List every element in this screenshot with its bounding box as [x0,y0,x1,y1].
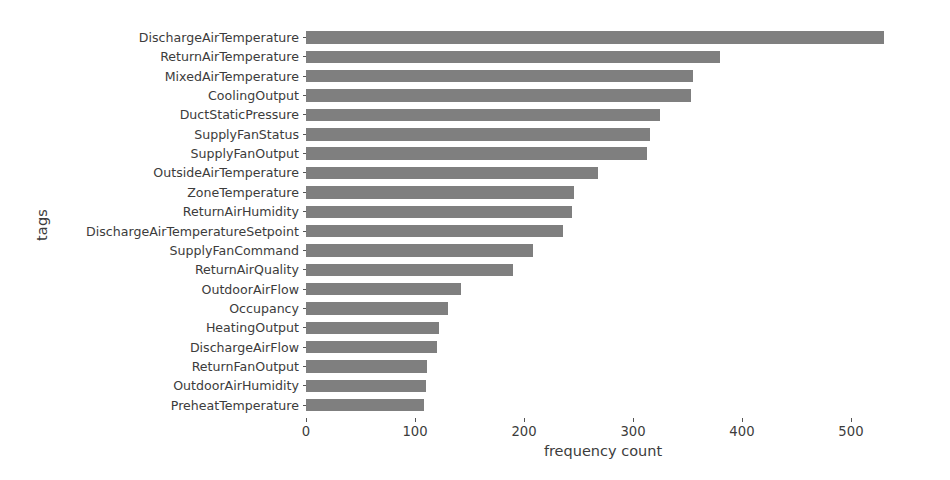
bar-row: DuctStaticPressure [306,105,900,124]
y-tick-label: OutdoorAirHumidity [173,376,306,395]
x-tick-mark [306,418,307,422]
y-axis-title: tags [34,175,54,275]
x-tick-label: 0 [276,424,336,439]
bar-row: SupplyFanOutput [306,144,900,163]
bar-row: OutdoorAirHumidity [306,376,900,395]
bar-row: ReturnAirTemperature [306,47,900,66]
x-tick-label: 200 [494,424,554,439]
bar [306,89,691,101]
y-tick-label: MixedAirTemperature [165,67,306,86]
bar [306,244,533,256]
y-tick-label: ReturnAirHumidity [183,202,306,221]
bar-row: OutsideAirTemperature [306,163,900,182]
y-tick-label: HeatingOutput [206,318,306,337]
y-tick-label: ReturnFanOutput [192,357,306,376]
bar [306,51,720,63]
y-tick-label: DischargeAirFlow [190,338,306,357]
bar-row: MixedAirTemperature [306,67,900,86]
y-tick-label: ReturnAirTemperature [160,47,306,66]
bar [306,283,461,295]
bar [306,147,647,159]
y-tick-label: PreheatTemperature [171,396,306,415]
bar-row: DischargeAirTemperature [306,28,900,47]
bar-row: ZoneTemperature [306,183,900,202]
x-tick-mark [742,418,743,422]
y-tick-label: ReturnAirQuality [195,260,306,279]
bar [306,264,513,276]
y-tick-label: SupplyFanCommand [170,241,306,260]
bar-row: ReturnFanOutput [306,357,900,376]
bar-row: SupplyFanCommand [306,241,900,260]
x-tick-mark [633,418,634,422]
bar-row: Occupancy [306,299,900,318]
bar-row: HeatingOutput [306,318,900,337]
bar-chart: tags DischargeAirTemperatureReturnAirTem… [0,0,950,480]
x-tick-mark [524,418,525,422]
y-tick-label: SupplyFanOutput [191,144,306,163]
x-tick-label: 500 [821,424,881,439]
y-tick-label: ZoneTemperature [187,183,306,202]
bar-row: DischargeAirTemperatureSetpoint [306,222,900,241]
x-axis: 0100200300400500 [306,418,900,419]
bar [306,186,574,198]
y-tick-label: DischargeAirTemperatureSetpoint [86,222,306,241]
plot-area: DischargeAirTemperatureReturnAirTemperat… [306,28,900,418]
x-tick-label: 100 [385,424,445,439]
bar [306,322,439,334]
x-tick-label: 400 [712,424,772,439]
bar [306,109,660,121]
bar [306,31,884,43]
bar [306,70,693,82]
y-tick-label: SupplyFanStatus [194,125,306,144]
x-tick-mark [851,418,852,422]
y-tick-label: DuctStaticPressure [180,105,306,124]
y-tick-label: OutsideAirTemperature [153,163,306,182]
y-tick-label: DischargeAirTemperature [139,28,306,47]
bar [306,302,448,314]
bar-row: ReturnAirQuality [306,260,900,279]
bar-row: PreheatTemperature [306,396,900,415]
bar [306,167,598,179]
y-tick-label: OutdoorAirFlow [202,280,306,299]
bar-row: DischargeAirFlow [306,338,900,357]
bar [306,380,426,392]
x-tick-label: 300 [603,424,663,439]
bar-row: SupplyFanStatus [306,125,900,144]
bar [306,225,563,237]
bar [306,128,650,140]
bar [306,341,437,353]
bar [306,206,572,218]
bar [306,360,427,372]
bar-row: ReturnAirHumidity [306,202,900,221]
y-tick-label: Occupancy [229,299,306,318]
y-tick-label: CoolingOutput [208,86,306,105]
x-tick-mark [415,418,416,422]
bar-row: OutdoorAirFlow [306,280,900,299]
bar [306,399,424,411]
bar-row: CoolingOutput [306,86,900,105]
x-axis-title: frequency count [306,443,900,459]
